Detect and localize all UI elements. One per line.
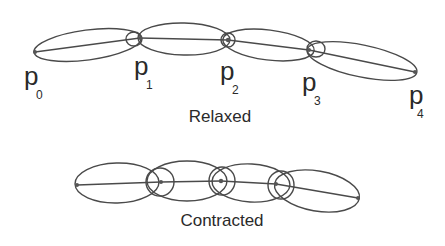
label-p4: p <box>409 80 423 110</box>
label-p0-sub: 0 <box>36 88 43 102</box>
contracted-chain <box>74 161 362 218</box>
contracted-segment-0 <box>77 182 161 185</box>
contracted-point-2 <box>219 179 223 183</box>
relaxed-point-p1 <box>138 36 142 40</box>
relaxed-segment-0 <box>35 38 140 52</box>
contracted-point-0 <box>75 183 79 187</box>
label-p4-sub: 4 <box>417 107 424 121</box>
relaxed-contracted-diagram: p 0 p 1 p 2 p 3 p 4 Relaxed <box>0 0 445 246</box>
label-p2: p <box>220 56 234 86</box>
relaxed-segment-2 <box>228 40 309 50</box>
label-p1: p <box>134 51 148 81</box>
relaxed-point-p3 <box>307 48 311 52</box>
label-p1-sub: 1 <box>146 78 153 92</box>
relaxed-point-p0 <box>33 50 37 54</box>
relaxed-point-p2 <box>226 38 230 42</box>
contracted-caption: Contracted <box>180 211 263 230</box>
relaxed-segment-3 <box>309 50 415 72</box>
relaxed-segment-1 <box>140 38 228 40</box>
label-p3: p <box>302 67 316 97</box>
relaxed-point-p4 <box>413 70 417 74</box>
label-p0: p <box>24 61 38 91</box>
label-p2-sub: 2 <box>232 83 239 97</box>
contracted-point-1 <box>159 180 163 184</box>
contracted-point-3 <box>274 182 278 186</box>
label-p3-sub: 3 <box>314 94 321 108</box>
contracted-segment-1 <box>161 181 221 182</box>
relaxed-caption: Relaxed <box>189 107 251 126</box>
contracted-point-4 <box>356 196 360 200</box>
